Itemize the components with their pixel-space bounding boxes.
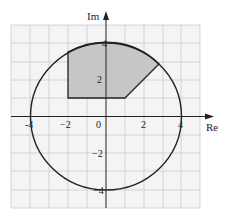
complex-plane-diagram: Im Re -4 −2 0 2 4 4 2 −2 −4 xyxy=(0,0,228,217)
x-tick-label: −2 xyxy=(60,119,71,130)
imaginary-axis-label: Im xyxy=(87,10,100,22)
y-tick-label: −4 xyxy=(93,185,104,196)
real-axis-label: Re xyxy=(206,121,218,133)
x-tick-label: 4 xyxy=(178,119,183,130)
imaginary-axis-arrow-icon xyxy=(103,11,109,20)
x-tick-label: 2 xyxy=(141,119,146,130)
y-tick-label: 2 xyxy=(97,74,102,85)
y-tick-label: −2 xyxy=(92,148,103,159)
real-axis-arrow-icon xyxy=(205,114,214,120)
x-tick-label: -4 xyxy=(25,119,33,130)
y-tick-label: 4 xyxy=(102,38,107,49)
x-tick-label: 0 xyxy=(96,119,101,130)
